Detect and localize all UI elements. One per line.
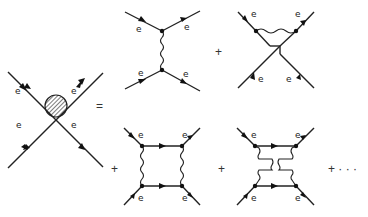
photon-propagator: [256, 29, 296, 33]
label-e: e: [71, 86, 77, 96]
photon-propagator: [181, 146, 184, 186]
label-e: e: [15, 86, 21, 96]
ellipsis-continuation: + · · ·: [328, 162, 357, 176]
equals-sign: =: [96, 99, 103, 113]
label-e: e: [182, 193, 188, 203]
label-e: e: [258, 74, 264, 84]
label-e: e: [16, 120, 22, 130]
photon-propagator: [141, 146, 144, 186]
plus-sign: +: [218, 162, 225, 176]
crossed-box-diagram: e e e e: [237, 128, 314, 205]
label-e: e: [251, 9, 257, 19]
feynman-diagram-figure: e e e e = e e e e +: [0, 0, 368, 217]
label-e: e: [295, 9, 301, 19]
hatched-blob-icon: [45, 95, 67, 117]
label-e: e: [251, 193, 257, 203]
label-e: e: [138, 68, 144, 78]
label-e: e: [182, 130, 188, 140]
label-e: e: [138, 130, 144, 140]
tree-exchange-diagram: e e e e: [125, 11, 200, 91]
label-e: e: [184, 22, 190, 32]
label-e: e: [183, 69, 189, 79]
plus-sign: +: [111, 162, 118, 176]
label-e: e: [295, 193, 301, 203]
tree-crossed-diagram: e e e e: [238, 9, 314, 88]
label-e: e: [286, 74, 292, 84]
box-diagram: e e e e: [124, 128, 200, 205]
plus-sign: +: [215, 45, 222, 59]
label-e: e: [295, 130, 301, 140]
label-e: e: [136, 24, 142, 34]
photon-propagator: [161, 31, 164, 70]
label-e: e: [138, 193, 144, 203]
blob-diagram: e e e e: [8, 72, 103, 168]
label-e: e: [71, 120, 77, 130]
label-e: e: [251, 130, 257, 140]
